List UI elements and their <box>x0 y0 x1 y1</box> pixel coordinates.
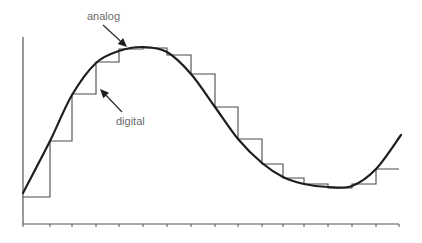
analog-digital-signal-diagram: analog digital <box>0 0 422 243</box>
digital-label: digital <box>116 115 145 127</box>
diagram-canvas: analog digital <box>0 0 422 243</box>
digital-signal-steps <box>23 48 399 197</box>
analog-signal-curve <box>23 47 401 193</box>
digital-arrow-shaft <box>106 96 122 112</box>
axes <box>23 37 399 227</box>
analog-label: analog <box>87 10 120 22</box>
analog-arrow-shaft <box>103 25 120 41</box>
digital-annotation: digital <box>100 89 145 127</box>
analog-annotation: analog <box>87 10 127 47</box>
